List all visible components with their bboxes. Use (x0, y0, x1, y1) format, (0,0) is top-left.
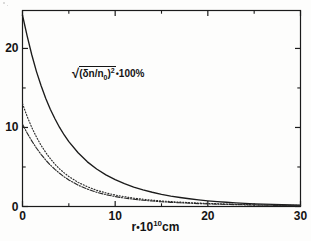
plot-area (0, 0, 311, 241)
x-title-unit: cm (162, 220, 179, 234)
series-curve-dash-dot (23, 124, 301, 205)
series-curve-dotted (23, 104, 301, 206)
radicand: (δn/n0)2 (79, 66, 116, 82)
figure-container: 01020 0102030 √(δn/n0)2•100% r•1010cm (0, 0, 311, 241)
y-tick-label: 10 (0, 121, 19, 133)
x-title-base: 10 (140, 220, 153, 234)
radical-sign: √ (72, 66, 79, 81)
radicand-exponent: 2 (111, 67, 115, 74)
radicand-base: (δn/n (79, 68, 103, 79)
percent-value: 100% (119, 68, 145, 79)
curve-annotation-label: √(δn/n0)2•100% (72, 66, 144, 82)
y-tick-label: 20 (0, 42, 19, 54)
x-axis-title: r•1010cm (0, 220, 311, 233)
x-title-exponent: 10 (153, 219, 162, 228)
